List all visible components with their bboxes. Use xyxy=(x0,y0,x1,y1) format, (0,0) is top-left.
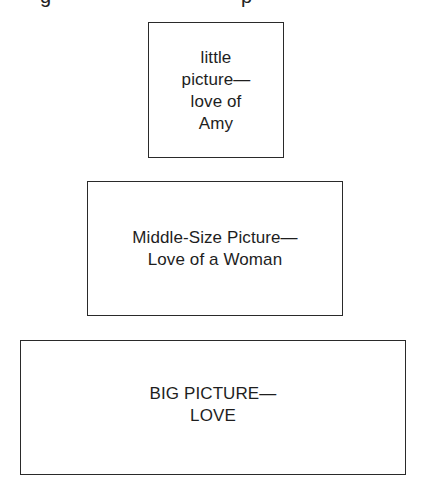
cropped-text-fragment-p: p xyxy=(241,0,252,6)
small-picture-box: little picture— love of Amy xyxy=(148,22,284,158)
middle-size-picture-box: Middle-Size Picture— Love of a Woman xyxy=(87,181,343,316)
middle-size-picture-label: Middle-Size Picture— Love of a Woman xyxy=(132,227,297,271)
small-picture-label: little picture— love of Amy xyxy=(182,45,251,135)
cropped-text-fragment-g: g xyxy=(40,0,51,6)
big-picture-box: BIG PICTURE— LOVE xyxy=(20,340,406,475)
big-picture-label: BIG PICTURE— LOVE xyxy=(150,383,277,427)
